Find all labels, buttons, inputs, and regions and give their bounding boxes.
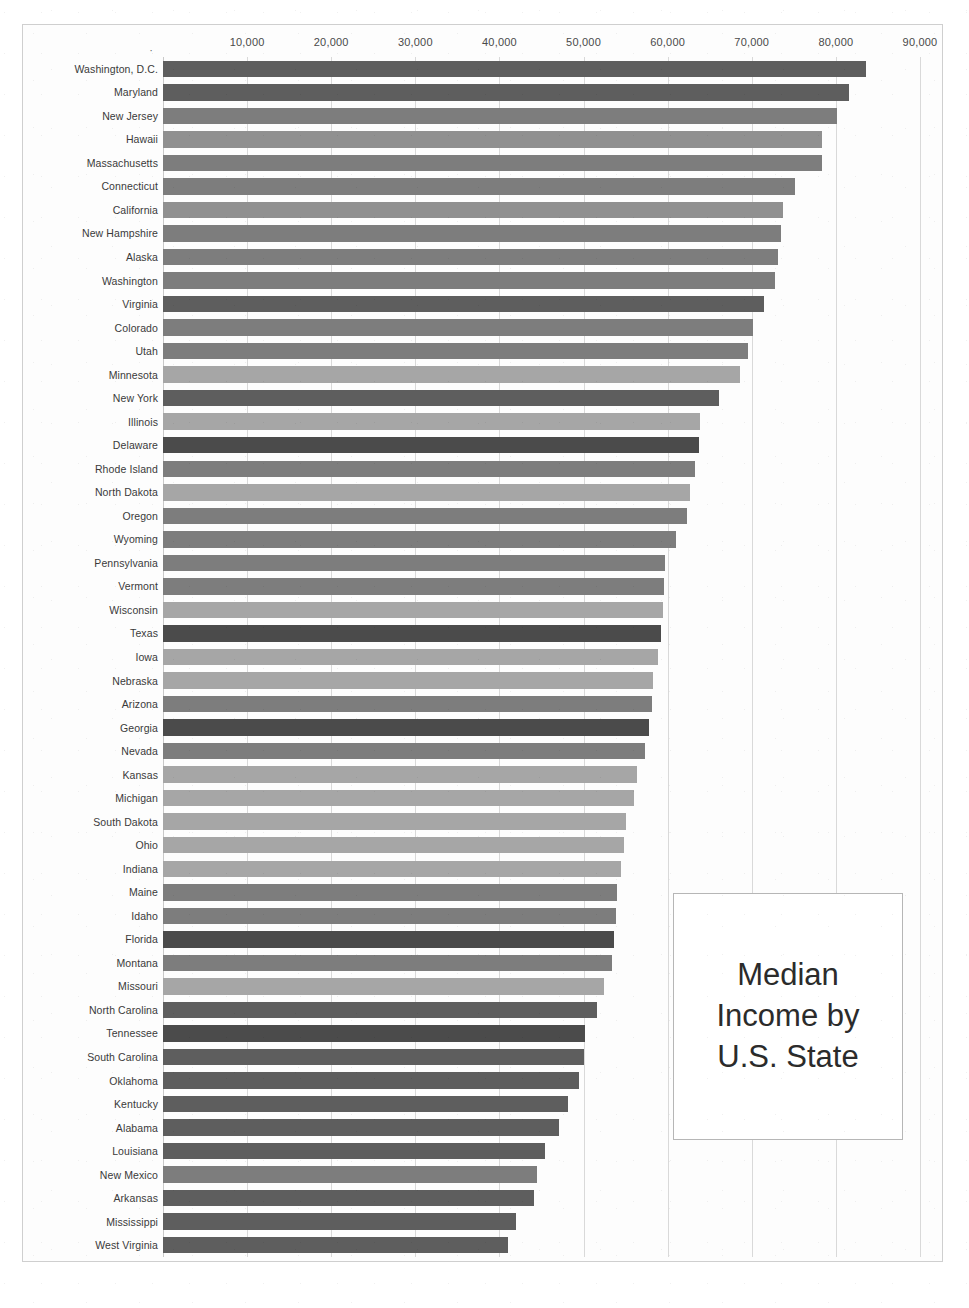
bar: [163, 743, 645, 759]
category-label: Idaho: [131, 911, 158, 922]
category-label: Kansas: [122, 770, 158, 781]
category-label: Arkansas: [113, 1193, 158, 1204]
bar: [163, 319, 753, 335]
category-label: Kentucky: [114, 1099, 158, 1110]
bar-row: [163, 1237, 920, 1253]
bar: [163, 508, 687, 524]
bar-row: [163, 813, 920, 829]
category-label: Maine: [129, 887, 158, 898]
bar: [163, 249, 778, 265]
category-label: Pennsylvania: [94, 558, 158, 569]
category-label: Delaware: [113, 440, 158, 451]
bar-row: [163, 343, 920, 359]
category-label: West Virginia: [95, 1240, 158, 1251]
bar-row: [163, 508, 920, 524]
bar: [163, 908, 616, 924]
category-label: Alaska: [126, 252, 158, 263]
bar: [163, 719, 649, 735]
bar: [163, 484, 690, 500]
category-label: Tennessee: [106, 1028, 158, 1039]
category-label: Indiana: [123, 864, 158, 875]
category-label: North Carolina: [89, 1005, 158, 1016]
bar-row: [163, 766, 920, 782]
bar: [163, 1049, 584, 1065]
bar: [163, 602, 663, 618]
bar: [163, 813, 626, 829]
bar: [163, 437, 699, 453]
bar: [163, 1072, 579, 1088]
bar: [163, 696, 652, 712]
x-tick-label: 90,000: [903, 36, 938, 48]
bar: [163, 155, 822, 171]
x-tick-label: 30,000: [398, 36, 433, 48]
category-label: Rhode Island: [95, 464, 158, 475]
category-label: Ohio: [135, 840, 158, 851]
x-tick-label: 60,000: [650, 36, 685, 48]
category-label: Louisiana: [112, 1146, 158, 1157]
bar: [163, 884, 617, 900]
category-label: Maryland: [114, 87, 158, 98]
category-label: North Dakota: [95, 487, 158, 498]
bar-row: [163, 61, 920, 77]
bar: [163, 931, 614, 947]
bar: [163, 1025, 585, 1041]
category-label: South Dakota: [93, 817, 158, 828]
category-label: Wisconsin: [109, 605, 158, 616]
bar: [163, 861, 621, 877]
bar: [163, 461, 695, 477]
bar-row: [163, 413, 920, 429]
bar-row: [163, 578, 920, 594]
x-tick-label: 20,000: [314, 36, 349, 48]
bar-row: [163, 366, 920, 382]
bar-row: [163, 390, 920, 406]
x-tick-label: 40,000: [482, 36, 517, 48]
bar-row: [163, 155, 920, 171]
bar: [163, 955, 612, 971]
category-label: Virginia: [122, 299, 158, 310]
median-income-bar-chart: · 10,00020,00030,00040,00050,00060,00070…: [0, 0, 969, 1308]
bar-row: [163, 296, 920, 312]
category-label: Montana: [116, 958, 158, 969]
bar: [163, 178, 795, 194]
category-label: Colorado: [115, 323, 158, 334]
bar-row: [163, 861, 920, 877]
category-label: Massachusetts: [87, 158, 158, 169]
bar: [163, 766, 637, 782]
bar-row: [163, 484, 920, 500]
x-tick-label: 80,000: [818, 36, 853, 48]
bar-row: [163, 837, 920, 853]
bar: [163, 108, 837, 124]
category-label: Missouri: [118, 981, 158, 992]
y-axis-category-labels: Washington, D.C.MarylandNew JerseyHawaii…: [28, 57, 158, 1257]
bar-row: [163, 531, 920, 547]
bar: [163, 1119, 559, 1135]
bar: [163, 296, 764, 312]
bar: [163, 225, 781, 241]
bar: [163, 649, 658, 665]
bar-row: [163, 437, 920, 453]
bar-row: [163, 790, 920, 806]
bar: [163, 1166, 537, 1182]
bar: [163, 1237, 508, 1253]
category-label: Texas: [130, 628, 158, 639]
bar-row: [163, 178, 920, 194]
category-label: Nebraska: [112, 676, 158, 687]
bar: [163, 413, 700, 429]
bar: [163, 978, 604, 994]
bar-row: [163, 131, 920, 147]
category-label: Minnesota: [109, 370, 158, 381]
category-label: New York: [113, 393, 158, 404]
bar: [163, 202, 783, 218]
category-label: Florida: [125, 934, 158, 945]
bar-row: [163, 319, 920, 335]
bar-row: [163, 108, 920, 124]
bar-row: [163, 1166, 920, 1182]
category-label: Georgia: [120, 723, 158, 734]
x-tick-label: 10,000: [230, 36, 265, 48]
bar: [163, 1190, 534, 1206]
bar-row: [163, 555, 920, 571]
chart-title: Median Income by U.S. State: [674, 955, 902, 1078]
x-axis-tick-labels: · 10,00020,00030,00040,00050,00060,00070…: [0, 36, 969, 56]
chart-title-callout-box: Median Income by U.S. State: [673, 893, 903, 1140]
category-label: Oregon: [122, 511, 158, 522]
